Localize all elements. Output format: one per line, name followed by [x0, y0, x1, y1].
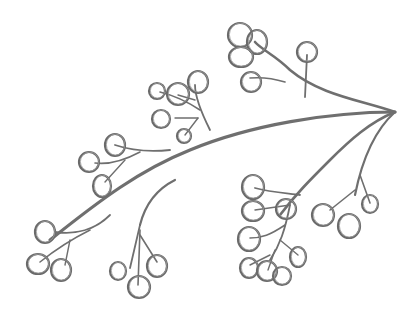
canvas-background [0, 0, 397, 317]
berry-branch-sketch [0, 0, 397, 317]
